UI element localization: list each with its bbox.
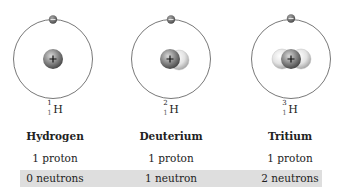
hydrogen-atom: [14, 15, 93, 98]
hydrogen-name: Hydrogen: [0, 130, 110, 142]
hydrogen-isotope-symbol: 1 1 H: [0, 104, 110, 116]
atomic-number: 1: [163, 110, 167, 117]
electron-icon: [49, 15, 57, 23]
proton-icon: [160, 49, 180, 69]
electron-icon: [287, 14, 295, 22]
deuterium-protons: 1 proton: [116, 152, 226, 164]
hydrogen-neutrons: 0 neutrons: [0, 172, 110, 184]
tritium-protons: 1 proton: [235, 152, 343, 164]
atomic-number: 1: [282, 110, 286, 117]
deuterium-neutrons: 1 neutron: [116, 172, 226, 184]
deuterium-atom: [132, 15, 211, 98]
mass-number: 3: [282, 100, 286, 107]
proton-icon: [43, 49, 63, 69]
proton-icon: [281, 49, 301, 69]
atom-diagrams: [0, 0, 343, 105]
mass-number: 2: [163, 100, 167, 107]
electron-icon: [167, 15, 175, 23]
element-symbol: H: [169, 103, 179, 116]
tritium-atom: [252, 14, 331, 98]
tritium-isotope-symbol: 3 1 H: [235, 104, 343, 116]
hydrogen-protons: 1 proton: [0, 152, 110, 164]
mass-number: 1: [47, 100, 51, 107]
deuterium-name: Deuterium: [116, 130, 226, 142]
element-symbol: H: [53, 103, 63, 116]
element-symbol: H: [288, 103, 298, 116]
tritium-name: Tritium: [235, 130, 343, 142]
tritium-neutrons: 2 neutrons: [235, 172, 343, 184]
atomic-number: 1: [47, 110, 51, 117]
deuterium-isotope-symbol: 2 1 H: [116, 104, 226, 116]
